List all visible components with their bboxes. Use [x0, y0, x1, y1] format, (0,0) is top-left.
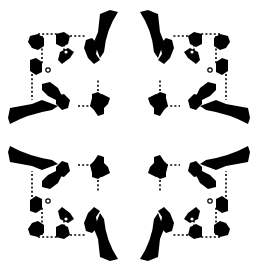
apse-north [94, 10, 164, 58]
stair-rings [46, 50, 212, 221]
crossing-piers [90, 94, 168, 177]
floor-plan [0, 0, 258, 271]
apse-west [8, 100, 58, 170]
vault-lines [32, 34, 226, 237]
apse-east [200, 100, 250, 170]
apse-south [94, 213, 164, 261]
